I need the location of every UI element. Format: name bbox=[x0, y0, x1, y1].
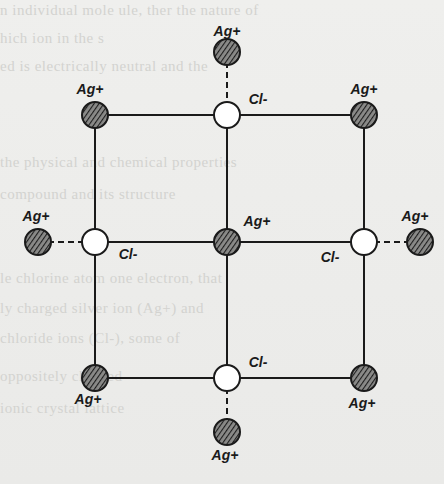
ions bbox=[25, 39, 433, 445]
ion-label-ag-top-right: Ag+ bbox=[350, 81, 378, 97]
silver-ion-ag-bottom bbox=[214, 419, 240, 445]
ion-label-ag-bottom-right: Ag+ bbox=[348, 395, 376, 411]
silver-ion-ag-mid-far-left bbox=[25, 229, 51, 255]
silver-ion-ag-bottom-left bbox=[82, 365, 108, 391]
ion-label-cl-bottom-center: Cl- bbox=[249, 354, 268, 370]
ion-label-ag-bottom-left: Ag+ bbox=[74, 391, 102, 407]
silver-ion-ag-top-left bbox=[82, 102, 108, 128]
chloride-ion-cl-mid-left bbox=[82, 229, 108, 255]
agcl-lattice-diagram: Ag+Cl-Ag+Ag+Ag+Cl-Ag+Cl-Ag+Ag+Cl-Ag+Ag+ bbox=[0, 0, 444, 484]
chloride-ion-cl-bottom-center bbox=[214, 365, 240, 391]
ion-label-ag-mid-far-left: Ag+ bbox=[22, 208, 50, 224]
ion-label-cl-top-center: Cl- bbox=[249, 91, 268, 107]
silver-ion-ag-bottom-right bbox=[351, 365, 377, 391]
ion-label-ag-bottom: Ag+ bbox=[211, 447, 239, 463]
silver-ion-ag-top bbox=[214, 39, 240, 65]
ion-label-ag-mid-far-right: Ag+ bbox=[401, 208, 429, 224]
silver-ion-ag-top-right bbox=[351, 102, 377, 128]
ion-label-cl-mid-right: Cl- bbox=[321, 249, 340, 265]
ion-label-ag-top-left: Ag+ bbox=[76, 81, 104, 97]
ion-label-cl-mid-left: Cl- bbox=[119, 246, 138, 262]
ion-label-ag-center: Ag+ bbox=[243, 213, 271, 229]
chloride-ion-cl-mid-right bbox=[351, 229, 377, 255]
silver-ion-ag-center bbox=[214, 229, 240, 255]
ion-label-ag-top: Ag+ bbox=[213, 23, 241, 39]
chloride-ion-cl-top-center bbox=[214, 102, 240, 128]
silver-ion-ag-mid-far-right bbox=[407, 229, 433, 255]
